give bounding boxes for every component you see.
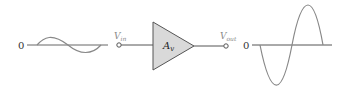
vout-node: [224, 44, 228, 48]
input-signal: 0: [18, 37, 108, 52]
vin-label: Vin: [114, 31, 126, 42]
output-signal: 0: [243, 5, 332, 85]
output-terminal: Vout: [194, 31, 237, 48]
input-zero-label: 0: [18, 40, 24, 51]
vout-label: Vout: [220, 31, 237, 42]
vin-node: [117, 43, 121, 47]
amplifier-diagram: 0 Vin Av Vout 0: [0, 0, 347, 89]
output-zero-label: 0: [243, 40, 249, 51]
input-terminal: Vin: [114, 31, 153, 47]
amplifier: Av: [153, 22, 194, 70]
